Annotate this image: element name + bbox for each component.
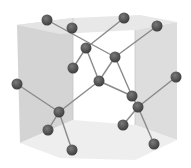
- atom: [171, 72, 182, 83]
- atom: [67, 23, 78, 34]
- atom: [127, 91, 138, 102]
- atom: [133, 102, 144, 113]
- atom: [43, 125, 54, 136]
- atom: [67, 145, 78, 156]
- atom: [42, 15, 53, 26]
- atom: [54, 107, 65, 118]
- atom: [118, 120, 129, 131]
- atom: [152, 21, 163, 32]
- unit-cell-faces: [17, 15, 177, 160]
- diamond-cubic-diagram: [0, 0, 191, 168]
- atom: [119, 13, 130, 24]
- atom: [81, 43, 92, 54]
- atom: [68, 63, 79, 74]
- atom: [110, 52, 121, 63]
- atom: [12, 79, 23, 90]
- atom: [94, 76, 105, 87]
- atom: [149, 139, 160, 150]
